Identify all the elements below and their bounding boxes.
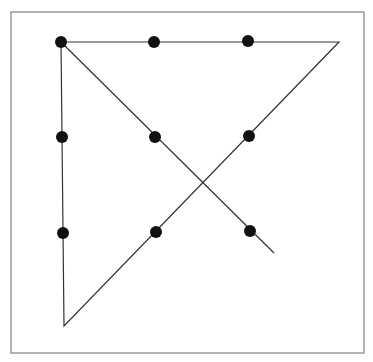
dot-2-2	[149, 131, 161, 143]
dot-3-1	[57, 227, 69, 239]
dot-1-3	[242, 35, 254, 47]
dot-2-3	[243, 130, 255, 142]
nine-dots-diagram	[0, 0, 373, 362]
dot-2-1	[56, 131, 68, 143]
solution-path	[61, 42, 339, 326]
dot-3-2	[150, 226, 162, 238]
dot-1-2	[148, 36, 160, 48]
dot-1-1	[55, 36, 67, 48]
dot-3-3	[244, 225, 256, 237]
